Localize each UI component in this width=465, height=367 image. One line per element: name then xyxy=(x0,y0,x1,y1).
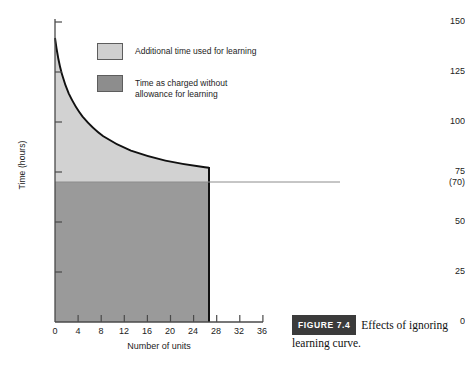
x-tick-label-32: 32 xyxy=(227,326,251,336)
figure-number-badge: FIGURE 7.4 xyxy=(292,315,356,335)
legend-swatch-additional-time xyxy=(97,43,123,60)
y-tick-label-50: 50 xyxy=(435,216,465,226)
x-tick-label-4: 4 xyxy=(66,326,90,336)
area-charged-time xyxy=(55,182,209,322)
y-tick-label-125: 125 xyxy=(435,66,465,76)
legend-item-additional-time: Additional time used for learning xyxy=(97,43,256,60)
legend-label-charged-time: Time as charged without allowance for le… xyxy=(135,75,227,99)
x-axis-title: Number of units xyxy=(55,341,263,351)
y-tick-label-150: 150 xyxy=(435,16,465,26)
y-tick-label-25: 25 xyxy=(435,266,465,276)
figure-container: Time (hours) 150 125 100 75 (70) 50 25 0… xyxy=(0,0,465,367)
x-tick-label-0: 0 xyxy=(43,326,67,336)
legend-swatch-charged-time xyxy=(97,75,123,92)
x-tick-label-28: 28 xyxy=(204,326,228,336)
x-tick-label-8: 8 xyxy=(89,326,113,336)
y-axis-title: Time (hours) xyxy=(17,110,27,220)
x-tick-label-36: 36 xyxy=(250,326,274,336)
legend-label-additional-time: Additional time used for learning xyxy=(135,43,256,57)
x-tick-label-16: 16 xyxy=(135,326,159,336)
y-tick-label-75: 75 xyxy=(435,166,465,176)
x-tick-label-20: 20 xyxy=(158,326,182,336)
y-tick-label-100: 100 xyxy=(435,116,465,126)
legend-item-charged-time: Time as charged without allowance for le… xyxy=(97,75,227,99)
x-tick-label-24: 24 xyxy=(181,326,205,336)
figure-caption: FIGURE 7.4Effects of ignoring learning c… xyxy=(292,315,460,351)
x-tick-label-12: 12 xyxy=(112,326,136,336)
y-tick-label-70-annotation: (70) xyxy=(435,177,465,187)
